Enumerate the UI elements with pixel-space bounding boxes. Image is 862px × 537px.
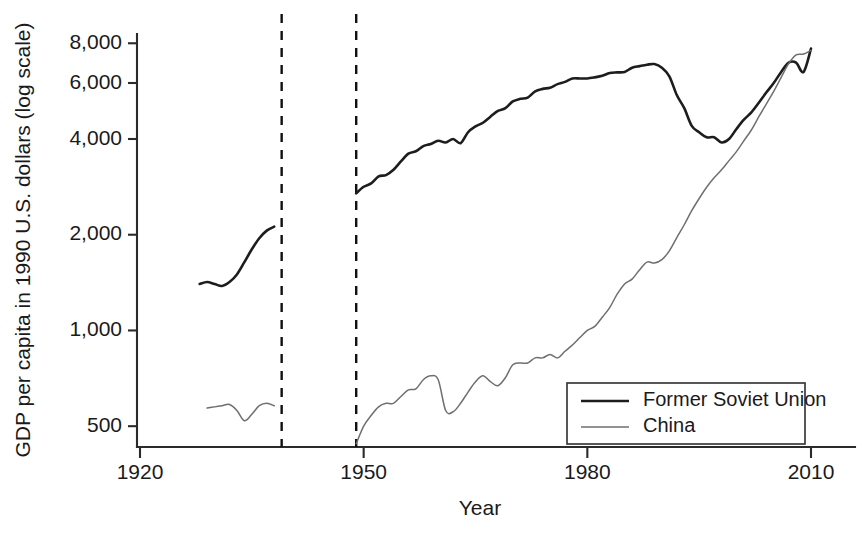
- y-tick-label-8000: 8,000: [69, 30, 122, 53]
- annotation-vlines: [282, 14, 357, 447]
- y-tick-label-500: 500: [87, 413, 122, 436]
- chart-legend: Former Soviet UnionChina: [567, 383, 826, 444]
- x-tick-label-1980: 1980: [564, 460, 611, 483]
- x-tick-label-2010: 2010: [788, 460, 835, 483]
- chart-container: 5001,0002,0004,0006,0008,000 GDP per cap…: [0, 0, 862, 537]
- y-axis: 5001,0002,0004,0006,0008,000 GDP per cap…: [11, 23, 137, 458]
- x-tick-label-1920: 1920: [117, 460, 164, 483]
- series-line-china-seg0: [207, 403, 274, 420]
- series-line-former-soviet-union-seg0: [200, 227, 275, 286]
- x-tick-label-1950: 1950: [340, 460, 387, 483]
- y-tick-group: 5001,0002,0004,0006,0008,000: [69, 30, 137, 436]
- y-tick-label-4000: 4,000: [69, 126, 122, 149]
- x-axis: 1920195019802010 Year: [117, 447, 855, 519]
- y-tick-label-2000: 2,000: [69, 221, 122, 244]
- series-line-former-soviet-union-seg1: [356, 49, 811, 194]
- legend-label-1: China: [643, 414, 696, 436]
- gdp-per-capita-line-chart: 5001,0002,0004,0006,0008,000 GDP per cap…: [0, 0, 862, 537]
- y-tick-label-1000: 1,000: [69, 317, 122, 340]
- x-tick-group: 1920195019802010: [117, 447, 835, 483]
- y-axis-title: GDP per capita in 1990 U.S. dollars (log…: [11, 23, 34, 458]
- legend-label-0: Former Soviet Union: [643, 388, 826, 410]
- y-tick-label-6000: 6,000: [69, 70, 122, 93]
- x-axis-title: Year: [459, 496, 501, 519]
